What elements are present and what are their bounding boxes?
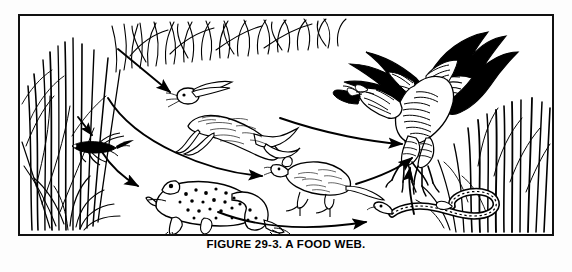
- figure-caption: FIGURE 29-3. A FOOD WEB.: [0, 238, 572, 250]
- rabbit: [166, 81, 300, 160]
- arrow-rabbit-to-hawk: [280, 118, 402, 144]
- hawk: [333, 32, 518, 196]
- grass-band-top: [112, 19, 346, 72]
- arrow-grass-to-rabbit: [118, 49, 170, 92]
- arrow-grass-to-grasshopper: [78, 117, 92, 135]
- figure-frame-border: [18, 14, 554, 236]
- grass-clump-left: [22, 38, 120, 230]
- mouse: [264, 157, 384, 217]
- figure-container: FIGURE 29-3. A FOOD WEB. grass rabbit gr…: [0, 0, 572, 272]
- frog: [146, 181, 290, 234]
- food-web-illustration: [20, 16, 552, 234]
